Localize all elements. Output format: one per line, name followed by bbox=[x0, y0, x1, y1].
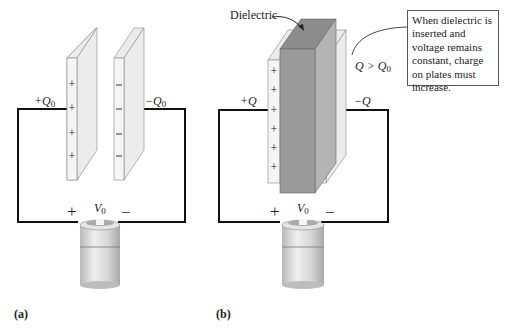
battery-b bbox=[282, 219, 324, 289]
panel-b: + + + + + + bbox=[219, 17, 407, 289]
inequality-label: Q > Q0 bbox=[355, 59, 391, 74]
explanation-callout: When dielectric is inserted and voltage … bbox=[407, 10, 499, 86]
panel-a-label: (a) bbox=[14, 307, 28, 322]
svg-text:+: + bbox=[271, 64, 278, 78]
svg-text:+: + bbox=[271, 160, 278, 174]
svg-text:+: + bbox=[271, 83, 278, 97]
plus-charge-label-b: +Q bbox=[240, 94, 257, 109]
panel-a: + + + + bbox=[18, 28, 185, 289]
svg-text:+: + bbox=[271, 103, 278, 117]
svg-text:+: + bbox=[271, 122, 278, 136]
positive-plate-a: + + + + bbox=[67, 28, 97, 180]
battery-minus-sign-a: − bbox=[121, 203, 131, 223]
battery-minus-sign-b: − bbox=[325, 203, 335, 223]
panel-b-label: (b) bbox=[216, 307, 231, 322]
callout-leader-line bbox=[352, 27, 407, 55]
battery-plus-sign-a: + bbox=[67, 202, 77, 222]
minus-charge-label-b: −Q bbox=[354, 94, 371, 109]
svg-text:+: + bbox=[69, 77, 76, 91]
plus-charge-label-a: +Q0 bbox=[34, 94, 55, 109]
svg-text:+: + bbox=[69, 126, 76, 140]
dielectric-slab bbox=[280, 19, 336, 193]
negative-plate-a bbox=[114, 28, 144, 180]
battery-plus-sign-b: + bbox=[270, 202, 280, 222]
dielectric-label: Dielectric bbox=[230, 8, 277, 23]
battery-a bbox=[80, 219, 120, 289]
svg-text:+: + bbox=[271, 141, 278, 155]
voltage-label-b: V0 bbox=[297, 201, 309, 216]
svg-text:+: + bbox=[69, 101, 76, 115]
voltage-label-a: V0 bbox=[94, 201, 106, 216]
minus-charge-label-a: −Q0 bbox=[145, 94, 166, 109]
svg-text:+: + bbox=[69, 149, 76, 163]
